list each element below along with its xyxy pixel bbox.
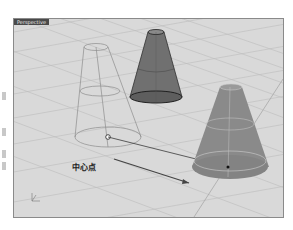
moved-center-point bbox=[227, 166, 230, 169]
move-direction-arrow bbox=[114, 159, 189, 183]
margin-mark bbox=[2, 150, 6, 158]
xyz-axis-icon bbox=[32, 193, 40, 201]
margin-mark bbox=[2, 92, 6, 100]
margin-mark bbox=[2, 128, 6, 136]
scene-canvas[interactable] bbox=[14, 19, 283, 217]
moved-truncated-cone bbox=[192, 84, 269, 179]
margin-mark bbox=[2, 162, 6, 170]
viewport-title-tab[interactable]: Perspective bbox=[14, 19, 49, 25]
center-point-label: 中心点 bbox=[72, 161, 96, 172]
perspective-viewport[interactable]: Perspective 中心点 bbox=[13, 18, 284, 218]
solid-truncated-cone bbox=[130, 30, 182, 104]
